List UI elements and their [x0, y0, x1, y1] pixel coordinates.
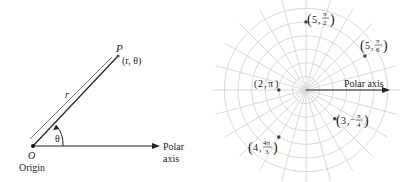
label-2-pi: ( 2 , π )	[254, 78, 278, 90]
grid-spoke	[282, 0, 306, 90]
svg-text:5: 5	[312, 14, 317, 25]
point-4-4pi-over-3	[277, 135, 281, 139]
angle-label: θ	[55, 133, 60, 144]
svg-text:3: 3	[265, 148, 269, 156]
grid-spoke	[306, 90, 330, 181]
point-5-pi-over-6	[363, 54, 367, 58]
svg-text:π: π	[268, 78, 273, 89]
left-polar-diagram: P (r, θ) r θ O Origin Polar axis	[19, 42, 185, 173]
grid-spoke	[215, 90, 306, 114]
svg-text:): )	[330, 12, 335, 28]
grid-spoke	[306, 90, 397, 114]
svg-text:4π: 4π	[263, 139, 271, 147]
radius-line	[33, 56, 118, 146]
svg-text:): )	[275, 78, 278, 90]
point-p	[116, 54, 119, 57]
svg-text:,: ,	[318, 14, 321, 25]
origin-letter: O	[28, 150, 35, 161]
point-p-label: P	[115, 42, 123, 54]
polar-axis-arrowhead	[152, 143, 160, 149]
svg-text:2: 2	[323, 19, 327, 27]
svg-text:π: π	[357, 112, 361, 120]
svg-text:π: π	[376, 37, 380, 45]
grid-spoke	[306, 90, 387, 137]
label-5-pi-over-2: ( 5 , π 2 )	[307, 10, 335, 28]
svg-text:−: −	[350, 114, 355, 124]
svg-text:2: 2	[258, 78, 263, 89]
grid-spoke	[282, 90, 306, 181]
grid-radial-lines	[212, 0, 400, 182]
svg-text:): )	[273, 140, 278, 156]
label-3-minus-pi-over-4: ( 3 , − π 4 )	[336, 112, 369, 129]
svg-text:,: ,	[259, 142, 262, 153]
svg-text:6: 6	[376, 46, 380, 54]
radius-label: r	[65, 89, 69, 100]
polar-axis-label-line2: axis	[163, 153, 179, 164]
right-polar-grid	[212, 0, 400, 182]
svg-text:): )	[364, 113, 369, 129]
origin-point	[31, 144, 35, 148]
grid-spoke	[306, 90, 353, 171]
label-4-4pi-over-3: ( 4 , 4π 3 )	[248, 139, 278, 156]
svg-text:,: ,	[371, 40, 374, 51]
figure-canvas: P (r, θ) r θ O Origin Polar axis Polar a…	[0, 0, 407, 182]
polar-axis-label: Polar axis	[344, 78, 384, 89]
grid-spoke	[259, 90, 306, 171]
svg-text:4: 4	[253, 142, 258, 153]
origin-label: Origin	[19, 162, 45, 173]
polar-axis-label-line1: Polar	[163, 141, 185, 152]
svg-text:): )	[383, 38, 388, 54]
svg-text:5: 5	[365, 40, 370, 51]
svg-text:3: 3	[341, 115, 346, 126]
radius-bracket-line	[30, 57, 112, 139]
svg-text:,: ,	[264, 78, 267, 89]
svg-text:π: π	[323, 10, 327, 18]
svg-text:4: 4	[357, 121, 361, 129]
point-p-coords: (r, θ)	[122, 55, 141, 67]
grid-spoke	[225, 90, 306, 137]
